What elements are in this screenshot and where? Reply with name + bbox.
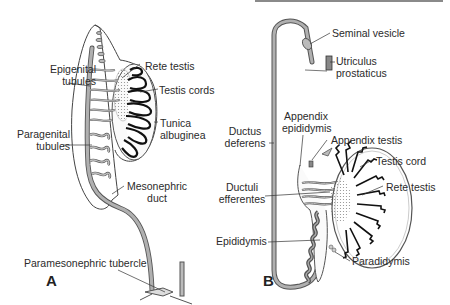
- label-epigenital-tubules: Epigenital tubules: [26, 63, 96, 87]
- label-line: Ductus: [222, 125, 268, 137]
- label-line: Ductuli: [218, 181, 266, 193]
- label-line: tubules: [8, 140, 70, 152]
- label-testis-cords: Testis cords: [159, 84, 214, 96]
- figure-stage: Epigenital tubules Rete testis Testis co…: [0, 0, 450, 305]
- label-paragenital-tubules: Paragenital tubules: [8, 128, 70, 152]
- label-paradidymis: Paradidymis: [352, 255, 410, 267]
- label-ductus-deferens: Ductus deferens: [222, 125, 268, 149]
- label-line: tubules: [26, 75, 96, 87]
- label-line: Utriculus: [336, 55, 387, 67]
- label-appendix-epididymis: Appendix epididymis: [282, 110, 330, 134]
- label-line: albuginea: [160, 129, 206, 141]
- label-line: prostaticus: [336, 67, 387, 79]
- label-ductuli-efferentes: Ductuli efferentes: [218, 181, 266, 205]
- label-tunica-albuginea: Tunica albuginea: [160, 117, 206, 141]
- label-testis-cord: Testis cord: [376, 155, 426, 167]
- label-appendix-testis: Appendix testis: [331, 134, 402, 146]
- panel-label-b: B: [263, 272, 274, 289]
- label-line: Mesonephric: [122, 180, 192, 192]
- label-line: Appendix: [282, 110, 330, 122]
- label-line: Epigenital: [26, 63, 96, 75]
- panel-label-a: A: [46, 272, 57, 289]
- label-line: deferens: [222, 137, 268, 149]
- label-seminal-vesicle: Seminal vesicle: [332, 27, 405, 39]
- label-utriculus-prostaticus: Utriculus prostaticus: [336, 55, 387, 79]
- label-line: Tunica: [160, 117, 206, 129]
- label-rete-testis-b: Rete testis: [386, 181, 436, 193]
- label-line: epididymis: [282, 122, 330, 134]
- label-line: duct: [122, 192, 192, 204]
- label-line: efferentes: [218, 193, 266, 205]
- label-paramesonephric-tubercle: Paramesonephric tubercle: [24, 257, 147, 269]
- label-line: Paragenital: [8, 128, 70, 140]
- label-mesonephric-duct: Mesonephric duct: [122, 180, 192, 204]
- label-rete-testis-a: Rete testis: [145, 60, 195, 72]
- label-epididymis: Epididymis: [216, 235, 267, 247]
